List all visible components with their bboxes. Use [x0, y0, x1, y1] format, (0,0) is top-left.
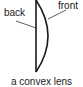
back-leader-line — [16, 21, 36, 28]
front-leader-line — [48, 10, 66, 19]
diagram-caption: a convex lens — [0, 76, 83, 87]
lens-front-surface — [36, 0, 48, 72]
front-label: front — [58, 1, 78, 11]
back-label: back — [4, 8, 25, 18]
